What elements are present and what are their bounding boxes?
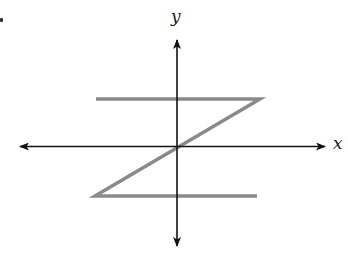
y-axis-label: y: [171, 8, 181, 25]
x-axis-label: x: [333, 135, 343, 152]
graph-canvas: [0, 0, 348, 254]
